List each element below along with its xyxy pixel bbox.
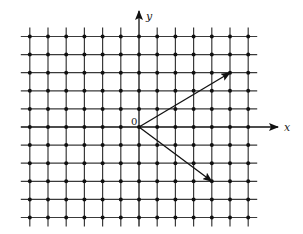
lattice-point [119, 161, 123, 165]
lattice-point [228, 143, 232, 147]
lattice-diagram: x y 0 [0, 0, 303, 234]
lattice-point [82, 71, 86, 75]
x-axis-label: x [284, 121, 291, 134]
lattice-point [46, 35, 50, 39]
lattice-point [210, 35, 214, 39]
lattice-point [82, 197, 86, 201]
lattice-point [101, 71, 105, 75]
lattice-point [28, 179, 32, 183]
lattice-point [228, 216, 232, 220]
lattice-point [82, 89, 86, 93]
lattice-point [119, 53, 123, 57]
origin-label: 0 [131, 116, 137, 127]
lattice-point [28, 197, 32, 201]
lattice-point [82, 35, 86, 39]
lattice-point [246, 216, 250, 220]
lattice-point [246, 179, 250, 183]
lattice-point [46, 71, 50, 75]
lattice-point [173, 35, 177, 39]
lattice-point [46, 53, 50, 57]
lattice-point [210, 89, 214, 93]
lattice-point [46, 161, 50, 165]
lattice-point [228, 161, 232, 165]
lattice-point [173, 216, 177, 220]
lattice-point [119, 216, 123, 220]
lattice-point [82, 179, 86, 183]
lattice-point [246, 71, 250, 75]
lattice-point [155, 35, 159, 39]
lattice-point [82, 143, 86, 147]
lattice-point [101, 216, 105, 220]
lattice-point [82, 107, 86, 111]
lattice-point [210, 107, 214, 111]
lattice-point [192, 71, 196, 75]
y-axis-label: y [145, 10, 153, 23]
lattice-point [119, 179, 123, 183]
lattice-point [228, 53, 232, 57]
lattice-point [28, 71, 32, 75]
lattice-point [192, 35, 196, 39]
lattice-point [246, 89, 250, 93]
lattice-point [46, 143, 50, 147]
lattice-point [210, 143, 214, 147]
lattice-point [28, 89, 32, 93]
lattice-point [82, 53, 86, 57]
lattice-point [246, 143, 250, 147]
lattice-point [28, 107, 32, 111]
lattice-point [246, 35, 250, 39]
lattice-point [155, 216, 159, 220]
lattice-point [82, 161, 86, 165]
lattice-point [64, 35, 68, 39]
lattice-point [246, 197, 250, 201]
lattice-point [155, 197, 159, 201]
lattice-point [173, 53, 177, 57]
lattice-point [119, 89, 123, 93]
lattice-point [173, 143, 177, 147]
lattice-point [46, 179, 50, 183]
lattice-point [46, 107, 50, 111]
lattice-point [192, 216, 196, 220]
lattice-point [173, 161, 177, 165]
lattice-point [173, 179, 177, 183]
lattice-point [192, 179, 196, 183]
lattice-point [119, 197, 123, 201]
lattice-point [173, 107, 177, 111]
lattice-point [173, 197, 177, 201]
lattice-point [101, 89, 105, 93]
lattice-point [101, 197, 105, 201]
lattice-point [101, 161, 105, 165]
lattice-point [173, 71, 177, 75]
lattice-point [46, 216, 50, 220]
lattice-point [246, 107, 250, 111]
lattice-point [119, 143, 123, 147]
lattice-point [192, 161, 196, 165]
lattice-point [155, 71, 159, 75]
lattice-point [228, 35, 232, 39]
lattice-point [119, 71, 123, 75]
lattice-point [228, 179, 232, 183]
lattice-point [210, 161, 214, 165]
lattice-point [246, 161, 250, 165]
lattice-point [101, 143, 105, 147]
lattice-point [46, 89, 50, 93]
lattice-point [119, 35, 123, 39]
lattice-point [155, 179, 159, 183]
lattice-point [210, 53, 214, 57]
lattice-point [28, 143, 32, 147]
lattice-point [64, 216, 68, 220]
lattice-point [228, 107, 232, 111]
lattice-point [64, 143, 68, 147]
lattice-point [64, 107, 68, 111]
lattice-point [28, 53, 32, 57]
lattice-point [64, 179, 68, 183]
lattice-point [28, 161, 32, 165]
lattice-point [101, 53, 105, 57]
lattice-point [101, 35, 105, 39]
lattice-point [155, 89, 159, 93]
lattice-point [101, 179, 105, 183]
lattice-point [192, 107, 196, 111]
lattice-point [64, 53, 68, 57]
vector-a [139, 73, 230, 127]
lattice-point [155, 143, 159, 147]
lattice-point [155, 53, 159, 57]
